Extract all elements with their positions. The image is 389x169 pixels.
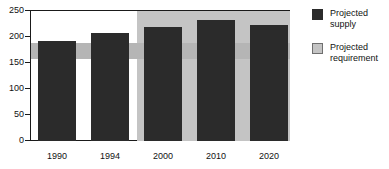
legend-item-projected-requirement: Projected requirement <box>312 42 389 64</box>
y-axis-label-100: 100 <box>0 84 24 93</box>
y-axis-label-250: 250 <box>0 6 24 15</box>
y-axis-label-150: 150 <box>0 58 24 67</box>
legend-item-projected-supply: Projected supply <box>312 8 389 30</box>
x-axis-label-1994: 1994 <box>90 152 130 161</box>
x-axis-label-1990: 1990 <box>37 152 77 161</box>
legend-label-projected-supply: Projected supply <box>330 8 368 30</box>
bar-2000 <box>144 27 182 141</box>
bar-1994 <box>91 33 129 141</box>
gray-square-swatch-icon <box>312 43 323 54</box>
bar-2020 <box>250 25 288 141</box>
x-axis-label-2020: 2020 <box>249 152 289 161</box>
x-axis-label-2010: 2010 <box>196 152 236 161</box>
y-axis-label-0: 0 <box>0 136 24 145</box>
y-axis-label-50: 50 <box>0 110 24 119</box>
plot-area <box>31 11 290 141</box>
bar-2010 <box>197 20 235 141</box>
dark-square-swatch-icon <box>312 9 323 20</box>
bar-1990 <box>38 41 76 141</box>
chart-legend: Projected supply Projected requirement <box>312 8 389 76</box>
bar-chart-figure: 250 200 150 100 50 0 1990 1994 2000 2010… <box>0 0 389 169</box>
x-axis-label-2000: 2000 <box>143 152 183 161</box>
y-axis-label-200: 200 <box>0 32 24 41</box>
legend-label-projected-requirement: Projected requirement <box>330 42 378 64</box>
